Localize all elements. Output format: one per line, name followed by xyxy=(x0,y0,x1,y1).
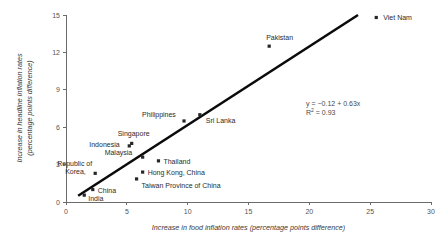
r-squared-annotation: R2 = 0.93 xyxy=(306,107,336,116)
data-point-marker xyxy=(94,172,97,175)
data-point-label: Hong Kong, China xyxy=(148,169,205,177)
data-point-label: Pakistan xyxy=(266,34,293,41)
data-point-marker xyxy=(83,194,86,197)
data-point-marker xyxy=(198,113,201,116)
x-tick-label: 0 xyxy=(64,208,68,215)
data-point-label: Thailand xyxy=(163,158,190,165)
data-point-marker xyxy=(91,188,94,191)
chart-canvas: 05101520253003691215 Viet NamPakistanSri… xyxy=(0,0,443,249)
axes-group: 05101520253003691215 xyxy=(52,12,435,216)
data-point-label: Malaysia xyxy=(105,149,133,157)
y-tick-label: 6 xyxy=(56,124,60,131)
data-point-label: Sri Lanka xyxy=(206,117,236,124)
annotation-group: y = −0.12 + 0.63xR2 = 0.93 xyxy=(306,100,361,116)
scatter-chart: 05101520253003691215 Viet NamPakistanSri… xyxy=(0,0,443,249)
data-point-marker xyxy=(141,156,144,159)
x-tick-label: 5 xyxy=(125,208,129,215)
y-tick-label: 12 xyxy=(52,49,60,56)
data-point-marker xyxy=(141,170,144,173)
y-axis-title-line1: Increase in headline inflation rates xyxy=(15,53,24,162)
data-point-label: China xyxy=(98,187,116,194)
data-point-marker xyxy=(157,159,160,162)
data-point-label: India xyxy=(88,195,103,202)
y-tick-label: 15 xyxy=(52,12,60,19)
data-point-label: Indonesia xyxy=(89,141,119,148)
y-axis-title-line2: (percentage points difference) xyxy=(25,60,34,156)
data-point-label: Viet Nam xyxy=(383,14,412,21)
y-tick-label: 0 xyxy=(56,199,60,206)
y-tick-label: 9 xyxy=(56,86,60,93)
data-point-label: Philippines xyxy=(142,111,176,119)
x-tick-label: 30 xyxy=(427,208,435,215)
data-point-label: Taiwan Province of China xyxy=(142,182,221,189)
regression-equation: y = −0.12 + 0.63x xyxy=(306,100,361,108)
x-tick-label: 10 xyxy=(184,208,192,215)
x-tick-label: 20 xyxy=(305,208,313,215)
data-point-marker xyxy=(135,177,138,180)
data-point-label: Republic ofKorea, xyxy=(57,160,92,175)
axis-titles-group: Increase in food inflation rates (percen… xyxy=(15,53,345,232)
x-tick-label: 15 xyxy=(245,208,253,215)
data-point-label: Singapore xyxy=(118,130,150,138)
data-point-marker xyxy=(268,45,271,48)
x-tick-label: 25 xyxy=(366,208,374,215)
data-point-marker xyxy=(182,119,185,122)
x-axis-title: Increase in food inflation rates (percen… xyxy=(152,223,345,232)
data-point-marker xyxy=(128,144,131,147)
data-point-marker xyxy=(375,16,378,19)
